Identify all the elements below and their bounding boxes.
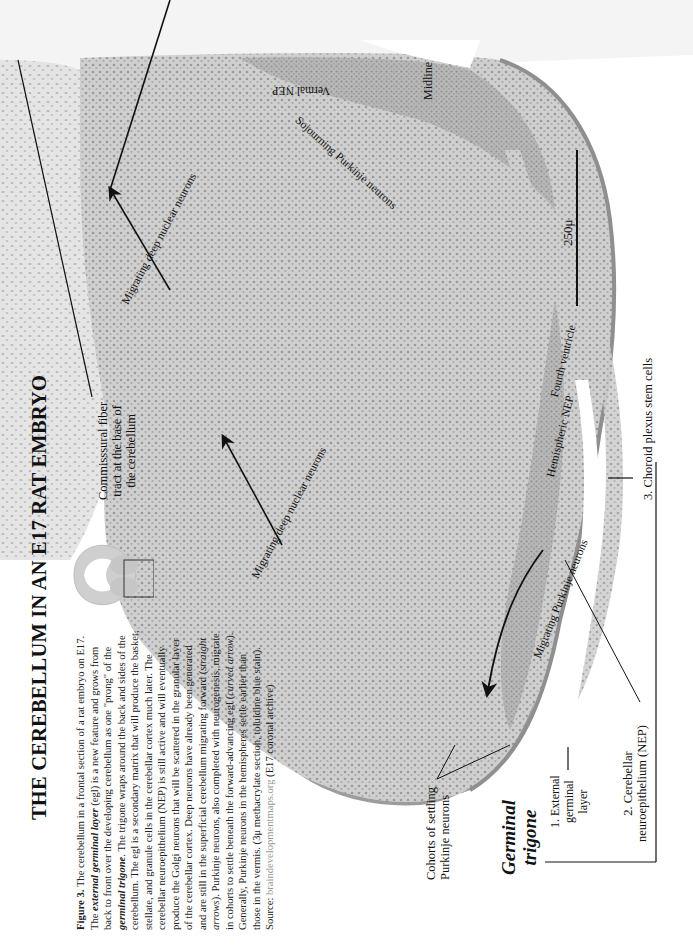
label-line: layer: [576, 775, 590, 828]
label-midline: Midline: [421, 62, 435, 100]
scale-bar-label: 250μ: [561, 220, 575, 246]
figure-label: Figure 3.: [75, 890, 86, 930]
label-line: Purkinje neurons: [438, 787, 452, 880]
label-line: neuroepithelium (NEP): [635, 725, 649, 842]
caption-term-trigone: germinal trigone: [116, 857, 127, 930]
label-line: 2. Cerebellar: [621, 725, 635, 842]
label-cohorts-purkinje: Cohorts of settling Purkinje neurons: [424, 787, 452, 880]
label-germinal-trigone: Germinal trigone: [498, 800, 540, 875]
caption-term-egl: external germinal layer: [89, 808, 100, 910]
label-line: Cohorts of settling: [424, 787, 438, 880]
label-line: Commisssural fiber: [96, 402, 110, 500]
label-line: tract at the base of: [110, 402, 124, 500]
caption-seg-4: . The trigone wraps around the back and …: [116, 630, 208, 930]
label-line: germinal: [562, 775, 576, 828]
label-vermal-nep: Vermal NEP: [272, 84, 330, 98]
caption-curved-arrow: curved arrow: [224, 639, 235, 696]
figure-caption: Figure 3. The cerebellum in a frontal se…: [74, 630, 277, 930]
page-title: THE CEREBELLUM IN AN E17 RAT EMBRYO: [28, 375, 51, 820]
label-line: Germinal: [498, 800, 519, 875]
label-commissural-tract: Commisssural fiber tract at the base of …: [96, 402, 138, 500]
source-link[interactable]: braindevelopmentmaps.org: [264, 780, 275, 895]
label-line: 1. External: [548, 775, 562, 828]
label-line: the cerebellum: [124, 402, 138, 500]
inset-brain-thumbnail: [64, 535, 154, 615]
label-choroid-plexus: 3. Choroid plexus stem cells: [641, 358, 655, 500]
label-external-germinal-layer: 1. External germinal layer: [548, 775, 590, 828]
label-line: trigone: [519, 800, 540, 875]
caption-seg-10: (E17 coronal archive): [264, 685, 275, 780]
label-cerebellar-nep: 2. Cerebellar neuroepithelium (NEP): [621, 725, 649, 842]
